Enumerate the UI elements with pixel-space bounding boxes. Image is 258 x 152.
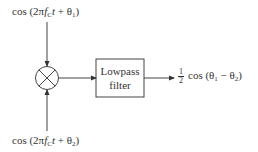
bottom-label-plus: + θ	[55, 134, 72, 146]
output-label: 1 2 cos (θ1 − θ2)	[178, 68, 242, 85]
fraction-denominator: 2	[178, 77, 184, 85]
top-label-prefix: cos (2π	[12, 5, 44, 17]
output-prefix: cos (θ	[188, 69, 214, 81]
top-label-plus: + θ	[55, 5, 72, 17]
filter-label-line2: filter	[96, 78, 144, 92]
bottom-label-prefix: cos (2π	[12, 134, 44, 146]
output-close: )	[238, 69, 242, 81]
bottom-label-close: )	[75, 134, 79, 146]
top-input-label: cos (2πfCt + θ1)	[12, 6, 79, 19]
block-diagram: cos (2πfCt + θ1) cos (2πfCt + θ2) Lowpas…	[0, 0, 258, 152]
multiplier-circle-icon	[36, 67, 59, 90]
top-label-close: )	[75, 5, 79, 17]
filter-label: Lowpass filter	[96, 64, 144, 92]
output-minus: − θ	[218, 69, 235, 81]
one-half-fraction: 1 2	[178, 68, 184, 85]
filter-label-line1: Lowpass	[96, 64, 144, 78]
bottom-input-label: cos (2πfCt + θ2)	[12, 135, 79, 148]
